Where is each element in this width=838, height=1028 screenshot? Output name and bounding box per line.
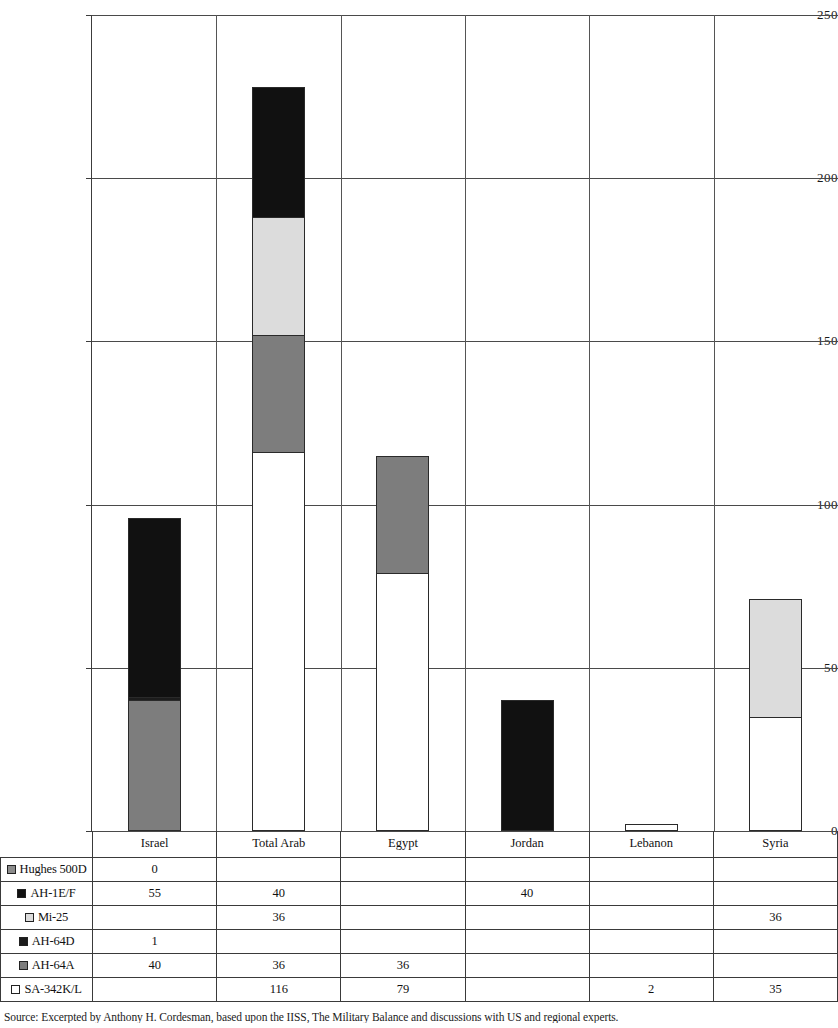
- category-header-egypt: Egypt: [341, 831, 465, 857]
- bar-segment: [376, 456, 429, 574]
- bar-segment: [252, 217, 305, 335]
- table-row: Mi-253636: [1, 905, 838, 929]
- bar-segment: [128, 518, 181, 698]
- category-header-lebanon: Lebanon: [589, 831, 713, 857]
- table-cell: 35: [713, 977, 837, 1001]
- category-header-jordan: Jordan: [465, 831, 589, 857]
- chart-page: 050100150200250 IsraelTotal ArabEgyptJor…: [0, 0, 838, 1028]
- bar-stack-israel: [128, 15, 181, 831]
- table-cell: [93, 905, 217, 929]
- table-row: AH-64D1: [1, 929, 838, 953]
- bar-segment: [252, 452, 305, 831]
- table-cell: 1: [93, 929, 217, 953]
- legend-swatch-icon: [25, 913, 34, 922]
- bar-segment: [252, 335, 305, 453]
- table-cell: 2: [589, 977, 713, 1001]
- bar-stack-egypt: [376, 15, 429, 831]
- legend-swatch-icon: [17, 889, 26, 898]
- bar-segment: [252, 87, 305, 218]
- plot-area: [92, 15, 838, 831]
- legend-swatch-icon: [11, 985, 20, 994]
- table-cell: [465, 929, 589, 953]
- category-header-syria: Syria: [713, 831, 837, 857]
- legend-row-label: AH-1E/F: [1, 881, 93, 905]
- legend-series-name: Mi-25: [38, 910, 68, 924]
- table-cell: [589, 905, 713, 929]
- table-cell: [589, 857, 713, 881]
- bar-stack-syria: [749, 15, 802, 831]
- table-corner-cell: [1, 831, 93, 857]
- category-separator: [465, 15, 466, 831]
- table-row: AH-1E/F554040: [1, 881, 838, 905]
- table-row: Hughes 500D0: [1, 857, 838, 881]
- table-row: AH-64A403636: [1, 953, 838, 977]
- legend-series-name: AH-1E/F: [30, 886, 75, 900]
- table-cell: [713, 953, 837, 977]
- legend-series-name: SA-342K/L: [24, 982, 81, 996]
- category-header-total-arab: Total Arab: [217, 831, 341, 857]
- category-header-row: IsraelTotal ArabEgyptJordanLebanonSyria: [1, 831, 838, 857]
- legend-row-label: AH-64A: [1, 953, 93, 977]
- table-cell: 36: [341, 953, 465, 977]
- table-cell: [341, 857, 465, 881]
- table-cell: 116: [217, 977, 341, 1001]
- bar-stack-jordan: [501, 15, 554, 831]
- bar-segment: [749, 599, 802, 717]
- table-cell: [589, 881, 713, 905]
- table-cell: [713, 929, 837, 953]
- table-cell: 40: [93, 953, 217, 977]
- legend-swatch-icon: [7, 865, 16, 874]
- table-cell: [217, 857, 341, 881]
- table-cell: 36: [217, 953, 341, 977]
- bar-segment: [501, 700, 554, 831]
- legend-row-label: Hughes 500D: [1, 857, 93, 881]
- table-cell: [93, 977, 217, 1001]
- legend-row-label: AH-64D: [1, 929, 93, 953]
- table-body: Hughes 500D0AH-1E/F554040Mi-253636AH-64D…: [1, 857, 838, 1001]
- category-separator: [216, 15, 217, 831]
- table-cell: [589, 953, 713, 977]
- table-cell: 40: [465, 881, 589, 905]
- table-cell: [465, 857, 589, 881]
- table-row: SA-342K/L11679235: [1, 977, 838, 1001]
- table-head: IsraelTotal ArabEgyptJordanLebanonSyria: [1, 831, 838, 857]
- bar-segment: [128, 700, 181, 831]
- bar-segment: [376, 573, 429, 831]
- table-cell: 55: [93, 881, 217, 905]
- table-cell: [589, 929, 713, 953]
- table-cell: [713, 881, 837, 905]
- legend-series-name: Hughes 500D: [20, 862, 87, 876]
- table-cell: [465, 905, 589, 929]
- legend-series-name: AH-64D: [32, 934, 75, 948]
- table-cell: [465, 953, 589, 977]
- table-cell: 40: [217, 881, 341, 905]
- bar-stack-lebanon: [625, 15, 678, 831]
- table-cell: [217, 929, 341, 953]
- table-cell: [341, 929, 465, 953]
- legend-series-name: AH-64A: [32, 958, 75, 972]
- bar-segment: [749, 717, 802, 831]
- bar-stack-total-arab: [252, 15, 305, 831]
- table-cell: [341, 905, 465, 929]
- legend-swatch-icon: [19, 961, 28, 970]
- legend-row-label: SA-342K/L: [1, 977, 93, 1001]
- table-cell: [465, 977, 589, 1001]
- category-separator: [341, 15, 342, 831]
- table-cell: 79: [341, 977, 465, 1001]
- category-separator: [714, 15, 715, 831]
- data-table: IsraelTotal ArabEgyptJordanLebanonSyria …: [0, 831, 838, 1002]
- table-cell: 36: [713, 905, 837, 929]
- category-header-israel: Israel: [93, 831, 217, 857]
- table-cell: 36: [217, 905, 341, 929]
- category-separator: [589, 15, 590, 831]
- legend-row-label: Mi-25: [1, 905, 93, 929]
- table-cell: [341, 881, 465, 905]
- source-caption: Source: Excerpted by Anthony H. Cordesma…: [4, 1011, 836, 1023]
- table-cell: 0: [93, 857, 217, 881]
- legend-swatch-icon: [19, 937, 28, 946]
- bar-segment: [128, 697, 181, 700]
- table-cell: [713, 857, 837, 881]
